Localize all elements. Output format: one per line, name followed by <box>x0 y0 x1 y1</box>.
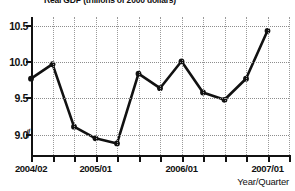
x-gridline <box>225 17 226 155</box>
x-gridline <box>74 17 75 155</box>
x-gridline <box>53 17 54 155</box>
x-tick-label: 2005/01 <box>79 163 111 174</box>
x-tick <box>96 155 98 162</box>
x-gridline <box>160 17 161 155</box>
chart-figure: Real GDP (trillions of 2000 dollars) 9.0… <box>0 0 295 191</box>
x-gridline <box>289 17 290 155</box>
y-tick-label: 10.5 <box>0 20 28 32</box>
x-tick <box>139 155 141 162</box>
x-gridline <box>96 17 97 155</box>
x-tick <box>53 155 55 162</box>
x-tick <box>268 155 270 162</box>
x-tick-label: 2007/01 <box>251 163 283 174</box>
x-tick <box>74 155 76 162</box>
x-tick <box>289 155 291 162</box>
x-gridline <box>139 17 140 155</box>
data-point <box>28 76 34 82</box>
x-gridline <box>182 17 183 155</box>
plot-area <box>31 17 289 155</box>
x-gridline <box>203 17 204 155</box>
x-tick <box>246 155 248 162</box>
x-axis-title: Year/Quarter <box>237 176 289 187</box>
chart-title: Real GDP (trillions of 2000 dollars) <box>44 0 176 5</box>
x-gridline <box>246 17 247 155</box>
x-tick-label: 2006/01 <box>165 163 197 174</box>
x-tick <box>117 155 119 162</box>
x-gridline <box>268 17 269 155</box>
y-tick-label: 9.5 <box>0 92 28 104</box>
series-line <box>31 31 268 144</box>
y-tick-label: 10.0 <box>0 56 28 68</box>
x-tick <box>203 155 205 162</box>
x-tick <box>225 155 227 162</box>
x-gridline <box>117 17 118 155</box>
x-tick <box>160 155 162 162</box>
x-tick-label: 2004/02 <box>15 163 47 174</box>
x-tick <box>182 155 184 162</box>
x-tick <box>31 155 33 162</box>
